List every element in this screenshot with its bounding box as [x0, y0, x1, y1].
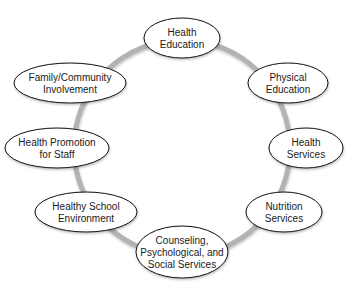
node-label: Education — [160, 39, 204, 50]
node-health-promotion-for-staff: Health Promotionfor Staff — [5, 128, 109, 168]
node-counseling-psychological-social-services: Counseling,Psychological, andSocial Serv… — [136, 226, 228, 278]
node-label: Counseling, — [156, 235, 209, 246]
node-label: Family/Community — [29, 72, 112, 83]
node-label: Healthy School — [52, 201, 119, 212]
node-healthy-school-environment: Healthy SchoolEnvironment — [35, 192, 137, 232]
node-label: Education — [266, 84, 310, 95]
node-label: Environment — [58, 213, 114, 224]
node-label: for Staff — [40, 149, 75, 160]
node-label: Nutrition — [265, 201, 302, 212]
node-label: Health Promotion — [18, 137, 95, 148]
node-label: Psychological, and — [140, 247, 223, 258]
node-physical-education: PhysicalEducation — [248, 63, 328, 103]
coordinated-school-health-cycle-diagram: HealthEducationPhysicalEducationHealthSe… — [0, 0, 362, 289]
node-health-education: HealthEducation — [144, 18, 220, 58]
node-family-community-involvement: Family/CommunityInvolvement — [14, 63, 126, 103]
node-label: Health — [292, 137, 321, 148]
node-label: Social Services — [148, 259, 216, 270]
node-label: Health — [168, 27, 197, 38]
node-label: Involvement — [43, 84, 97, 95]
nodes-group: HealthEducationPhysicalEducationHealthSe… — [5, 18, 343, 278]
node-nutrition-services: NutritionServices — [246, 192, 322, 232]
node-label: Services — [287, 149, 325, 160]
node-health-services: HealthServices — [269, 128, 343, 168]
node-label: Physical — [269, 72, 306, 83]
node-label: Services — [265, 213, 303, 224]
